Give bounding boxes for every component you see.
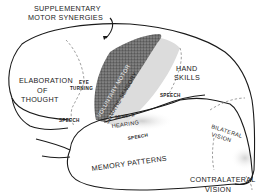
label-elaboration-3: THOUGHT [21,95,59,104]
label-elaboration-2: OF [37,86,48,95]
label-hand-1: HAND [176,64,198,73]
label-hand-2: SKILLS [174,73,200,82]
label-supplementary-2: MOTOR SYNERGIES [28,13,103,22]
arrowhead-icon [103,36,108,40]
orbital-outline [36,139,70,150]
orbital-outline-2 [42,156,70,158]
label-eye-2: TURNING [70,86,93,91]
label-contralateral-1: CONTRALATERAL [190,175,256,184]
supplementary-pointer [106,18,113,38]
label-speech-parietal: SPEECH [160,93,181,98]
label-speech-temporal: SPEECH [127,132,149,141]
vision-boundary [210,98,245,110]
label-supplementary-1: SUPPLEMENTARY [34,4,101,13]
brain-diagram: SUPPLEMENTARY MOTOR SYNERGIES ELABORATIO… [0,0,259,196]
bilateral-vision-boundary [213,138,215,170]
label-eye-1: EYE [79,80,89,85]
label-elaboration-1: ELABORATION [19,76,73,85]
label-speech-frontal: SPEECH [59,118,80,123]
label-contralateral-2: VISION [205,185,231,194]
label-memory-patterns: MEMORY PATTERNS [91,154,167,173]
